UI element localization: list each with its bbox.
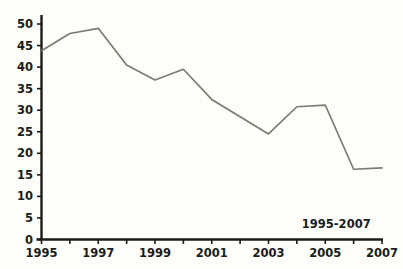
y-axis-tick-label: 15: [17, 168, 33, 182]
chart-annotation: 1995-2007: [302, 217, 371, 231]
line-chart: 05101520253035404550 1995199719992001200…: [0, 0, 403, 269]
y-axis-tick-label: 20: [17, 146, 33, 160]
y-axis-tick-label: 25: [17, 125, 33, 139]
x-axis-tick-label: 2003: [252, 246, 284, 260]
chart-canvas: 05101520253035404550 1995199719992001200…: [0, 0, 403, 269]
x-axis-tick-label: 1995: [25, 246, 57, 260]
x-axis-tick-label: 2001: [196, 246, 228, 260]
y-axis-tick-label: 40: [17, 60, 33, 74]
range-annotation-label: 1995-2007: [302, 217, 371, 231]
y-axis-tick-label: 30: [17, 103, 33, 117]
y-axis-tick-label: 35: [17, 82, 33, 96]
y-axis-tick-label: 5: [25, 211, 33, 225]
y-axis-tick-label: 50: [17, 17, 33, 31]
x-axis-tick-label: 2005: [309, 246, 341, 260]
y-axis-tick-label: 45: [17, 39, 33, 53]
x-axis-tick-label: 2007: [366, 246, 398, 260]
y-axis-tick-label: 10: [17, 189, 33, 203]
x-axis-tick-label: 1997: [82, 246, 114, 260]
y-axis-tick-label: 0: [25, 233, 33, 247]
x-axis-tick-label: 1999: [139, 246, 171, 260]
